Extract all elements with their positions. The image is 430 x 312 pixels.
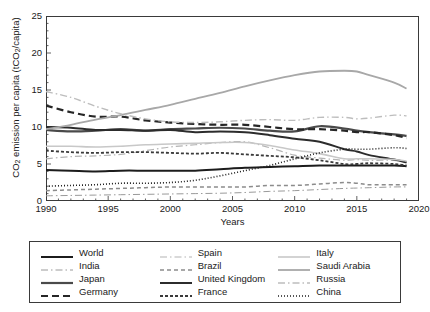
legend-swatch-icon <box>277 274 311 284</box>
legend-swatch-icon <box>40 287 74 297</box>
x-axis-tick-labels: 1990199520002005201020152020 <box>46 203 419 217</box>
legend-swatch-icon <box>277 261 311 271</box>
legend-swatch-icon <box>40 248 74 258</box>
legend-grid: WorldSpainItalyIndiaBrazilSaudi ArabiaJa… <box>30 242 400 302</box>
legend-item-brazil[interactable]: Brazil <box>159 259 276 272</box>
line-chart: CO2 emission per capita (tCO2/capita) 05… <box>0 0 430 232</box>
series-line-world <box>46 165 407 171</box>
y-tick-15: 15 <box>20 84 42 95</box>
legend-swatch-icon <box>277 248 311 258</box>
legend-item-russia[interactable]: Russia <box>277 272 394 285</box>
legend-label: Saudi Arabia <box>316 261 370 271</box>
legend-box: WorldSpainItalyIndiaBrazilSaudi ArabiaJa… <box>29 241 401 303</box>
legend-item-saudi-arabia[interactable]: Saudi Arabia <box>277 259 394 272</box>
legend-label: France <box>198 287 228 297</box>
series-lines <box>46 16 419 201</box>
x-tick-2020: 2020 <box>399 203 430 214</box>
y-tick-5: 5 <box>20 158 42 169</box>
legend-swatch-icon <box>159 261 193 271</box>
legend-item-germany[interactable]: Germany <box>40 285 157 298</box>
legend-item-spain[interactable]: Spain <box>159 246 276 259</box>
y-tick-20: 20 <box>20 47 42 58</box>
legend-label: Japan <box>79 274 105 284</box>
legend-label: China <box>316 287 341 297</box>
x-tick-2015: 2015 <box>337 203 377 214</box>
legend-item-japan[interactable]: Japan <box>40 272 157 285</box>
legend-swatch-icon <box>159 274 193 284</box>
legend-item-india[interactable]: India <box>40 259 157 272</box>
series-line-india <box>46 187 407 196</box>
legend-label: United Kingdom <box>198 274 266 284</box>
x-tick-2000: 2000 <box>150 203 190 214</box>
legend-item-italy[interactable]: Italy <box>277 246 394 259</box>
legend-label: India <box>79 261 100 271</box>
legend-item-china[interactable]: China <box>277 285 394 298</box>
legend-swatch-icon <box>277 287 311 297</box>
legend-label: Russia <box>316 274 345 284</box>
legend-label: Spain <box>198 248 222 258</box>
legend-label: Germany <box>79 287 118 297</box>
chart-screenshot: CO2 emission per capita (tCO2/capita) 05… <box>0 0 430 312</box>
legend-label: Brazil <box>198 261 222 271</box>
x-tick-2005: 2005 <box>213 203 253 214</box>
legend-swatch-icon <box>40 274 74 284</box>
series-line-saudi-arabia <box>46 71 407 129</box>
legend-swatch-icon <box>159 248 193 258</box>
legend-item-world[interactable]: World <box>40 246 157 259</box>
series-line-france <box>46 151 407 166</box>
x-axis-title: Years <box>46 216 419 227</box>
y-axis-tick-labels: 0510152025 <box>18 16 42 201</box>
x-tick-1990: 1990 <box>26 203 66 214</box>
legend-swatch-icon <box>159 287 193 297</box>
legend-item-united-kingdom[interactable]: United Kingdom <box>159 272 276 285</box>
y-tick-10: 10 <box>20 121 42 132</box>
x-tick-2010: 2010 <box>275 203 315 214</box>
y-tick-25: 25 <box>20 10 42 21</box>
legend-label: World <box>79 248 104 258</box>
x-tick-1995: 1995 <box>88 203 128 214</box>
legend-label: Italy <box>316 248 333 258</box>
legend-item-france[interactable]: France <box>159 285 276 298</box>
plot-area <box>46 16 419 201</box>
legend-swatch-icon <box>40 261 74 271</box>
